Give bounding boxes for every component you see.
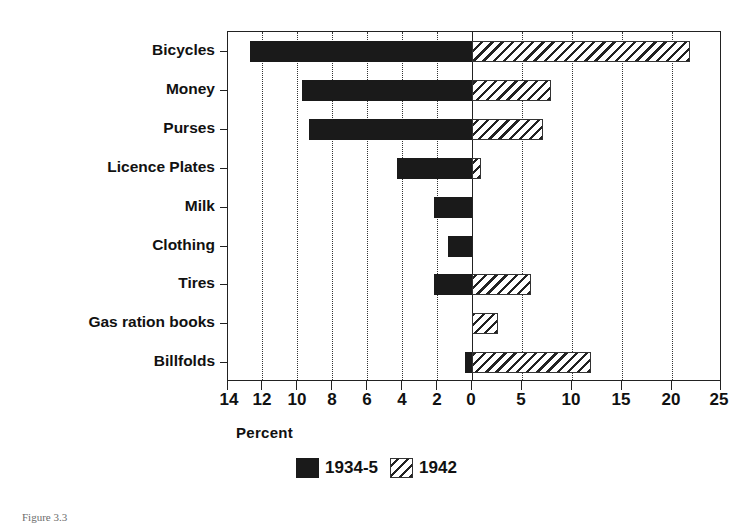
- x-axis-title: Percent: [236, 424, 293, 441]
- legend-item-1934-5: 1934-5: [296, 458, 378, 478]
- bar-row-licence-plates: [228, 149, 720, 188]
- bar-1942-money: [472, 80, 551, 101]
- x-tick-label-right-5: 5: [516, 390, 525, 410]
- bar-1934-5-purses: [309, 119, 472, 140]
- bar-1934-5-milk: [434, 197, 473, 218]
- x-tick-label-2: 2: [432, 390, 441, 410]
- x-tick-label-4: 4: [397, 390, 406, 410]
- bar-1934-5-licence-plates: [397, 158, 472, 179]
- y-label-clothing: Clothing: [0, 226, 215, 265]
- bar-1934-5-clothing: [448, 236, 473, 257]
- y-label-money: Money: [0, 70, 215, 109]
- bar-1934-5-bicycles: [250, 41, 472, 62]
- y-label-billfolds: Billfolds: [0, 342, 215, 381]
- legend-label-1934-5: 1934-5: [325, 458, 378, 478]
- x-tick-label-right-15: 15: [612, 390, 631, 410]
- bar-1942-licence-plates: [472, 158, 481, 179]
- legend-item-1942: 1942: [390, 458, 457, 478]
- x-tick-label-6: 6: [362, 390, 371, 410]
- y-label-milk: Milk: [0, 187, 215, 226]
- bar-row-gas-ration-books: [228, 304, 720, 343]
- bar-row-clothing: [228, 227, 720, 266]
- figure-caption: Figure 3.3: [22, 511, 67, 523]
- plot-area: [227, 31, 721, 381]
- bar-1934-5-billfolds: [465, 352, 472, 373]
- bar-1934-5-tires: [434, 274, 473, 295]
- x-tick-label-right-25: 25: [710, 390, 729, 410]
- x-tick-label-8: 8: [327, 390, 336, 410]
- bar-1942-tires: [472, 274, 531, 295]
- x-axis-ticks: [227, 381, 721, 390]
- y-label-purses: Purses: [0, 109, 215, 148]
- bar-row-money: [228, 71, 720, 110]
- bar-1942-gas-ration-books: [472, 313, 498, 334]
- bar-row-bicycles: [228, 32, 720, 71]
- hatched-swatch-icon: [390, 458, 413, 478]
- y-label-licence-plates: Licence Plates: [0, 148, 215, 187]
- bar-row-tires: [228, 265, 720, 304]
- bar-1942-bicycles: [472, 41, 690, 62]
- x-tick-label-right-20: 20: [662, 390, 681, 410]
- legend-label-1942: 1942: [419, 458, 457, 478]
- x-tick-label-right-10: 10: [562, 390, 581, 410]
- y-label-bicycles: Bicycles: [0, 31, 215, 70]
- x-tick-label-10: 10: [288, 390, 307, 410]
- bar-1942-billfolds: [472, 352, 591, 373]
- bar-1942-purses: [472, 119, 543, 140]
- figure-container: Bicycles Money Purses Licence Plates Mil…: [0, 0, 753, 524]
- bar-row-purses: [228, 110, 720, 149]
- x-tick-label-0: 0: [466, 390, 475, 410]
- y-axis-labels: Bicycles Money Purses Licence Plates Mil…: [0, 31, 221, 381]
- chart-legend: 1934-5 1942: [0, 458, 753, 478]
- y-label-gas-ration-books: Gas ration books: [0, 303, 215, 342]
- x-axis-tick-labels: 14 12 10 8 6 4 2 0 5 10 15 20 25: [0, 390, 753, 414]
- bar-row-billfolds: [228, 343, 720, 382]
- bar-row-milk: [228, 188, 720, 227]
- x-tick-label-12: 12: [253, 390, 272, 410]
- y-label-tires: Tires: [0, 264, 215, 303]
- solid-black-swatch-icon: [296, 458, 319, 478]
- bar-1934-5-money: [302, 80, 472, 101]
- x-tick-label-14: 14: [220, 390, 239, 410]
